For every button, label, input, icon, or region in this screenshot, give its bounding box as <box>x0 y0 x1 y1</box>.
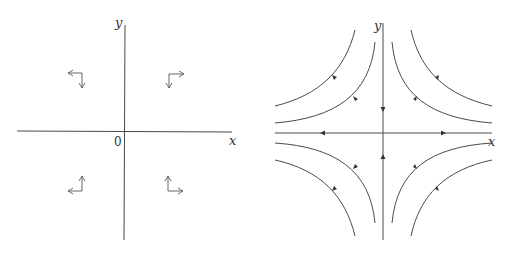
trajectory-arrow-icon <box>353 96 358 101</box>
origin-label: 0 <box>114 135 122 149</box>
trajectory-tl-inner <box>275 42 375 123</box>
trajectory-arrow-icon <box>413 164 417 169</box>
vector-bottom-left-icon <box>68 176 82 191</box>
y-axis-arrow-down-icon <box>381 107 386 112</box>
figure-canvas: y 0 x y x <box>0 0 509 253</box>
y-axis-arrow-up-icon <box>381 154 386 159</box>
x-axis-label: x <box>488 134 496 149</box>
vector-field-panel: y 0 x <box>17 15 237 240</box>
trajectory-arrow-icon <box>413 96 417 101</box>
phase-portrait-panel: y x <box>275 18 496 240</box>
y-axis-label: y <box>114 15 123 30</box>
trajectory-tr-outer <box>411 30 492 106</box>
y-axis-line <box>124 25 125 240</box>
x-axis-label: x <box>229 133 237 148</box>
trajectory-arrow-icon <box>332 75 337 80</box>
vector-top-right-icon <box>169 74 184 88</box>
trajectory-bl-outer <box>275 160 355 236</box>
trajectory-br-inner <box>392 143 492 223</box>
trajectory-arrow-icon <box>353 164 358 169</box>
trajectory-br-outer <box>411 160 492 236</box>
y-axis-label: y <box>373 18 382 33</box>
vector-bottom-right-icon <box>168 176 183 191</box>
trajectory-tl-outer <box>275 30 355 106</box>
trajectory-arrow-icon <box>332 186 337 191</box>
x-axis-arrow-left-icon <box>320 131 325 136</box>
trajectory-arrow-icon <box>435 186 439 191</box>
x-axis-arrow-right-icon <box>441 131 446 136</box>
vector-top-left-icon <box>68 73 82 88</box>
